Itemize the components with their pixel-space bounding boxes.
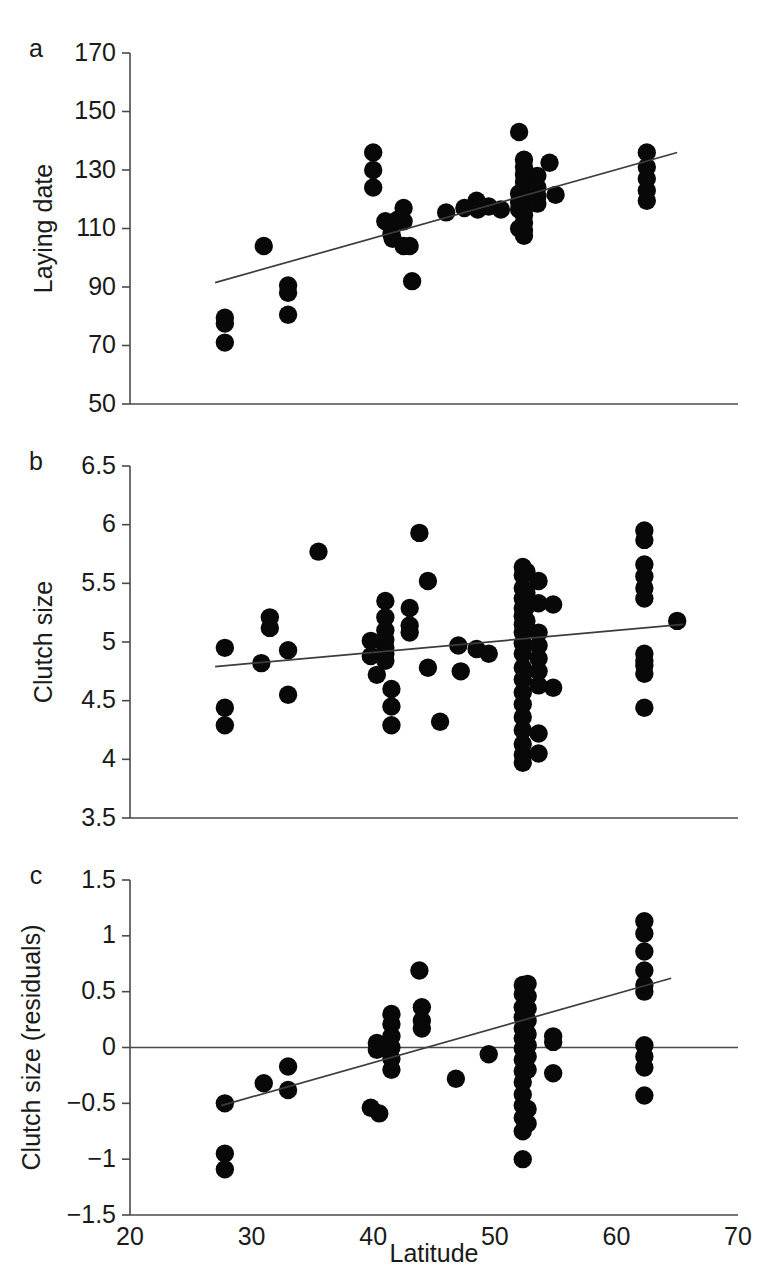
data-point <box>382 680 400 698</box>
data-point <box>529 724 547 742</box>
y-axis-tick-label: 130 <box>74 155 116 183</box>
y-axis-tick-label: 5.5 <box>81 568 116 596</box>
data-point <box>635 1086 653 1104</box>
data-point <box>279 284 297 302</box>
data-point <box>480 645 498 663</box>
data-point <box>216 333 234 351</box>
data-point <box>400 237 418 255</box>
data-point <box>419 659 437 677</box>
data-point <box>510 200 528 218</box>
data-point <box>255 1074 273 1092</box>
data-point <box>261 619 279 637</box>
data-point <box>510 123 528 141</box>
data-point <box>540 153 558 171</box>
x-axis-tick-label: 70 <box>724 1222 752 1250</box>
figure-container: 507090110130150170Laying datea 3.544.555… <box>0 0 784 1283</box>
x-axis-tick-label: 50 <box>481 1222 509 1250</box>
data-point <box>514 754 532 772</box>
y-axis-tick-label: 110 <box>76 213 116 241</box>
data-point <box>447 1070 465 1088</box>
data-point <box>635 1058 653 1076</box>
data-point <box>635 699 653 717</box>
data-point <box>309 542 327 560</box>
data-point <box>529 744 547 762</box>
data-point <box>518 1114 536 1132</box>
data-point <box>635 531 653 549</box>
panel-label-a: a <box>29 34 43 62</box>
y-axis-tick-label: 0 <box>102 1032 116 1060</box>
y-axis-tick-label: −0.5 <box>67 1088 116 1116</box>
panel-label-c: c <box>30 861 43 889</box>
y-axis-tick-label: 70 <box>88 330 116 358</box>
data-point <box>376 592 394 610</box>
data-point <box>528 194 546 212</box>
data-point <box>544 679 562 697</box>
data-point <box>364 143 382 161</box>
y-axis-title: Laying date <box>29 164 57 293</box>
data-point <box>431 713 449 731</box>
data-point <box>410 961 428 979</box>
y-axis-tick-label: 170 <box>74 38 116 66</box>
data-point <box>413 1019 431 1037</box>
data-point <box>216 699 234 717</box>
data-point <box>544 1033 562 1051</box>
data-point <box>514 1150 532 1168</box>
x-axis-title: Latitude <box>390 1239 479 1267</box>
data-point <box>279 1057 297 1075</box>
data-point <box>382 1061 400 1079</box>
x-axis-tick-label: 20 <box>116 1222 144 1250</box>
data-point <box>216 716 234 734</box>
y-axis-tick-label: −1 <box>87 1144 116 1172</box>
y-axis-title: Clutch size (residuals) <box>17 925 45 1171</box>
data-point <box>635 924 653 942</box>
panel-label-b: b <box>29 447 43 475</box>
data-point <box>216 1160 234 1178</box>
y-axis-title: Clutch size <box>29 581 57 703</box>
data-point <box>544 1064 562 1082</box>
x-axis-title-group: Latitude <box>390 1239 479 1267</box>
data-point <box>370 1104 388 1122</box>
data-point <box>382 697 400 715</box>
data-point <box>419 572 437 590</box>
data-point <box>635 589 653 607</box>
data-point <box>376 652 394 670</box>
data-point <box>480 1045 498 1063</box>
data-point <box>510 219 528 237</box>
data-point <box>364 178 382 196</box>
y-axis-tick-label: 6 <box>102 509 116 537</box>
data-point <box>279 641 297 659</box>
data-point <box>400 623 418 641</box>
y-axis-tick-label: 150 <box>74 96 116 124</box>
data-point <box>492 200 510 218</box>
data-point <box>410 524 428 542</box>
data-point <box>279 686 297 704</box>
y-axis-tick-label: 50 <box>88 389 116 417</box>
y-axis-tick-label: 4 <box>102 744 116 772</box>
data-point <box>400 599 418 617</box>
x-axis-tick-label: 40 <box>359 1222 387 1250</box>
data-point <box>279 306 297 324</box>
y-axis-tick-label: −1.5 <box>67 1200 116 1228</box>
y-axis-tick-label: 90 <box>88 272 116 300</box>
data-point <box>216 639 234 657</box>
data-point <box>403 272 421 290</box>
data-point <box>279 1081 297 1099</box>
data-point <box>216 314 234 332</box>
y-axis-tick-label: 6.5 <box>81 451 116 479</box>
data-point <box>635 664 653 682</box>
data-point <box>452 662 470 680</box>
multi-panel-scatter-figure: 507090110130150170Laying datea 3.544.555… <box>0 0 784 1283</box>
data-point <box>518 1061 536 1079</box>
x-axis-tick-label: 60 <box>602 1222 630 1250</box>
data-point <box>635 942 653 960</box>
data-point <box>544 595 562 613</box>
x-axis-tick-label: 30 <box>238 1222 266 1250</box>
data-point <box>364 161 382 179</box>
data-point <box>668 612 686 630</box>
data-point <box>638 192 656 210</box>
y-axis-tick-label: 5 <box>102 627 116 655</box>
data-point <box>382 716 400 734</box>
y-axis-tick-label: 4.5 <box>81 685 116 713</box>
y-axis-tick-label: 1.5 <box>81 865 116 893</box>
y-axis-tick-label: 1 <box>102 920 116 948</box>
